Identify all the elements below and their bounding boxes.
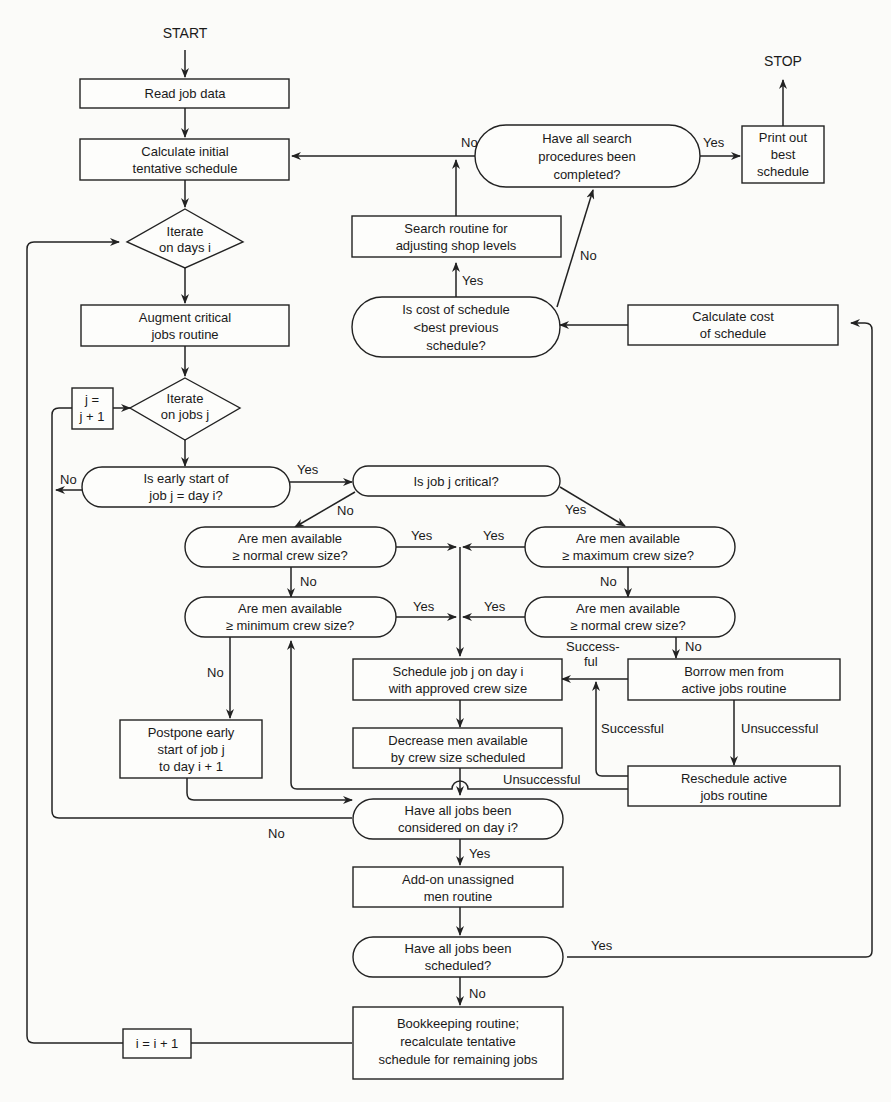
node-text: Iterate (167, 391, 204, 406)
label-considered-yes: Yes (469, 846, 491, 861)
node-text: Reschedule active (681, 771, 787, 786)
node-text: <best previous (414, 320, 499, 335)
node-text: start of job j (157, 742, 224, 757)
label-critical-yes: Yes (565, 502, 587, 517)
node-text: adjusting shop levels (396, 238, 517, 253)
node-text: Print out (759, 130, 808, 145)
label-search-no: No (461, 135, 478, 150)
node-text: Are men available (238, 531, 342, 546)
node-text: best (771, 147, 796, 162)
node-i-increment: i = i + 1 (123, 1029, 191, 1058)
node-postpone-early-start: Postpone early start of job j to day i +… (120, 720, 262, 778)
stop-terminal: STOP (764, 53, 802, 69)
edge-considered-no (52, 795, 352, 818)
label-normal-right-no: No (685, 639, 702, 654)
node-text: ≥ minimum crew size? (226, 618, 355, 633)
node-text: Search routine for (404, 221, 508, 236)
node-text: Have all search (542, 131, 632, 146)
node-borrow-men: Borrow men from active jobs routine (628, 659, 840, 700)
node-calculate-initial-schedule: Calculate initial tentative schedule (80, 139, 289, 180)
node-text: men routine (424, 889, 493, 904)
node-text: Calculate initial (141, 144, 229, 159)
label-reschedule-unsuccessful: Unsuccessful (503, 772, 580, 787)
label-early-yes: Yes (297, 462, 319, 477)
node-text: j = (84, 392, 99, 407)
edge-iinc-days (27, 242, 123, 1043)
label-scheduled-no: No (469, 986, 486, 1001)
node-early-start-decision: Is early start of job j = day i? (82, 467, 290, 507)
label-borrow-unsuccessful: Unsuccessful (741, 721, 818, 736)
node-calculate-cost: Calculate cost of schedule (628, 305, 838, 345)
label-critical-no: No (337, 503, 354, 518)
node-text: Is job j critical? (413, 474, 498, 489)
node-text: procedures been (538, 149, 636, 164)
node-text: schedule for remaining jobs (379, 1052, 538, 1067)
node-text: Is cost of schedule (402, 302, 510, 317)
node-text: Schedule job j on day i (393, 664, 524, 679)
node-job-critical-decision: Is job j critical? (353, 466, 560, 496)
node-text: Borrow men from (684, 664, 784, 679)
node-text: i = i + 1 (136, 1036, 179, 1051)
node-text: of schedule (700, 326, 767, 341)
node-text: scheduled? (425, 958, 492, 973)
node-all-considered-decision: Have all jobs been considered on day i? (353, 799, 563, 839)
node-decrease-men: Decrease men available by crew size sche… (353, 728, 562, 768)
node-text: Are men available (576, 531, 680, 546)
node-text: jobs routine (150, 327, 218, 342)
node-add-on-unassigned: Add-on unassigned men routine (353, 867, 563, 907)
label-minimum-yes: Yes (413, 599, 435, 614)
node-text: completed? (553, 167, 620, 182)
label-cost-no: No (580, 248, 597, 263)
node-reschedule-active: Reschedule active jobs routine (628, 766, 840, 806)
node-text: Add-on unassigned (402, 872, 514, 887)
node-text: Iterate (167, 224, 204, 239)
label-maximum-no: No (600, 574, 617, 589)
node-text: j + 1 (79, 409, 105, 424)
flowchart-canvas: START STOP Read job data Calculate initi… (0, 0, 891, 1102)
node-text: considered on day i? (398, 820, 518, 835)
edge-left-loop-jobs (52, 408, 72, 795)
node-cost-less-decision: Is cost of schedule <best previous sched… (352, 297, 560, 357)
node-augment-critical-jobs: Augment critical jobs routine (81, 305, 289, 346)
node-men-minimum: Are men available ≥ minimum crew size? (185, 597, 396, 637)
label-cost-yes: Yes (462, 273, 484, 288)
node-text: to day i + 1 (159, 759, 223, 774)
node-text: active jobs routine (682, 681, 787, 696)
label-maximum-yes: Yes (483, 528, 505, 543)
node-all-scheduled-decision: Have all jobs been scheduled? (353, 937, 563, 977)
node-bookkeeping: Bookkeeping routine; recalculate tentati… (353, 1007, 563, 1079)
node-text: ≥ normal crew size? (232, 548, 348, 563)
label-normal-right-yes: Yes (484, 599, 506, 614)
label-early-no: No (60, 472, 77, 487)
node-search-complete-decision: Have all search procedures been complete… (475, 125, 700, 187)
label-borrow-successful-cont: ful (584, 654, 598, 669)
node-search-routine: Search routine for adjusting shop levels (352, 216, 561, 257)
start-terminal: START (163, 25, 208, 41)
node-text: tentative schedule (133, 161, 238, 176)
node-print-best-schedule: Print out best schedule (742, 126, 824, 183)
node-iterate-jobs: Iterate on jobs j (130, 378, 240, 440)
node-iterate-days: Iterate on days i (127, 209, 243, 268)
label-borrow-successful: Success- (566, 639, 619, 654)
node-text: ≥ normal crew size? (570, 618, 686, 633)
node-text: Are men available (238, 601, 342, 616)
node-text: Have all jobs been (405, 803, 512, 818)
node-text: on jobs j (161, 407, 210, 422)
node-text: Calculate cost (692, 309, 774, 324)
node-schedule-job: Schedule job j on day i with approved cr… (353, 659, 562, 700)
node-text: ≥ maximum crew size? (562, 548, 694, 563)
node-text: Bookkeeping routine; (397, 1016, 519, 1031)
label-minimum-no: No (207, 665, 224, 680)
node-text: by crew size scheduled (391, 750, 525, 765)
label-search-yes: Yes (703, 135, 725, 150)
node-text: on days i (159, 240, 211, 255)
node-text: recalculate tentative (400, 1034, 516, 1049)
node-text: Is early start of (143, 471, 229, 486)
node-text: Read job data (145, 86, 227, 101)
node-text: Decrease men available (388, 733, 527, 748)
node-j-increment: j = j + 1 (72, 388, 113, 429)
label-normal-left-no: No (300, 574, 317, 589)
node-men-normal-left: Are men available ≥ normal crew size? (185, 527, 396, 567)
node-text: Have all jobs been (405, 941, 512, 956)
node-text: Are men available (576, 601, 680, 616)
